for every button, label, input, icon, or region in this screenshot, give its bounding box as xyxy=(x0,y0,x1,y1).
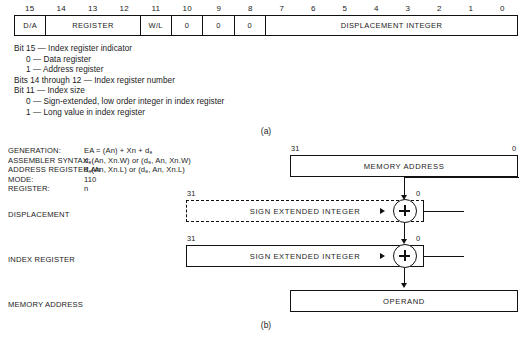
bit-description-list: Bit 15 — Index register indicator0 — Dat… xyxy=(14,44,224,118)
bit-description-line: Bit 15 — Index register indicator xyxy=(14,44,224,55)
caption-a: (a) xyxy=(0,126,532,136)
arrow-into-operand xyxy=(401,283,407,288)
bit-description-line: 0 — Data register xyxy=(26,55,224,66)
bit-field-diagram: 1514131211109876543210 D/AREGISTERW/L000… xyxy=(14,2,518,36)
bit-number-5: 5 xyxy=(329,2,361,15)
connector-displacement-to-adder-1 xyxy=(424,211,464,212)
row-label-index-register: INDEX REGISTER xyxy=(8,255,75,264)
bit-field-w-l: W/L xyxy=(141,16,172,35)
bit-number-3: 3 xyxy=(392,2,424,15)
box-operand: OPERAND xyxy=(290,290,518,312)
bit-description-line: Bit 11 — Index size xyxy=(14,86,224,97)
row-label-address-register: ADDRESS REGISTER An xyxy=(8,165,100,174)
bit-number-7: 7 xyxy=(266,2,298,15)
row-label-memory-address: MEMORY ADDRESS xyxy=(8,300,83,309)
row-label-displacement: DISPLACEMENT xyxy=(8,210,69,219)
bit-field-0: 0 xyxy=(235,16,266,35)
bit-field-boxes: D/AREGISTERW/L000DISPLACEMENT INTEGER xyxy=(14,15,518,36)
box-memory-address-register: MEMORY ADDRESS xyxy=(290,155,518,177)
bit-number-row: 1514131211109876543210 xyxy=(14,2,518,15)
bit-number-13: 13 xyxy=(77,2,109,15)
arrow-displacement-into-adder-1 xyxy=(380,208,385,214)
bit-number-1: 1 xyxy=(455,2,487,15)
bitmark-lsb-address-register: 0 xyxy=(512,144,516,153)
bit-number-0: 0 xyxy=(487,2,519,15)
adder-1 xyxy=(393,199,417,223)
box-index-register-sign-extended-integer: SIGN EXTENDED INTEGER xyxy=(186,245,424,267)
bit-number-4: 4 xyxy=(361,2,393,15)
bitmark-lsb-index-register: 0 xyxy=(416,234,420,243)
bit-number-12: 12 xyxy=(109,2,141,15)
connector-index-register-to-adder-2 xyxy=(424,256,464,257)
connector-adder-1-to-adder-2 xyxy=(404,223,405,240)
bit-field-d-a: D/A xyxy=(15,16,46,35)
connector-adder-2-to-operand xyxy=(404,268,405,284)
bitmark-msb-address-register: 31 xyxy=(291,144,300,153)
connector-address-register-bottom xyxy=(404,177,519,178)
bitmark-msb-displacement: 31 xyxy=(187,189,196,198)
connector-address-register-down xyxy=(404,177,405,197)
caption-b: (b) xyxy=(0,320,532,330)
bit-field-0: 0 xyxy=(203,16,234,35)
bit-number-9: 9 xyxy=(203,2,235,15)
bit-number-8: 8 xyxy=(235,2,267,15)
bit-description-line: 1 — Long value in index register xyxy=(26,108,224,119)
bit-field-displacement-integer: DISPLACEMENT INTEGER xyxy=(266,16,517,35)
bit-number-6: 6 xyxy=(298,2,330,15)
box-displacement-sign-extended-integer: SIGN EXTENDED INTEGER xyxy=(186,200,424,222)
effective-address-diagram: ADDRESS REGISTER An 31 0 MEMORY ADDRESS … xyxy=(0,140,532,320)
bit-description-line: Bits 14 through 12 — Index register numb… xyxy=(14,76,224,87)
bit-number-14: 14 xyxy=(46,2,78,15)
arrow-index-into-adder-2 xyxy=(380,253,385,259)
bitmark-msb-index-register: 31 xyxy=(187,234,196,243)
bit-description-line: 0 — Sign-extended, low order integer in … xyxy=(26,97,224,108)
bit-number-10: 10 xyxy=(172,2,204,15)
bit-description-line: 1 — Address register xyxy=(26,65,224,76)
adder-2 xyxy=(393,244,417,268)
figure-page: 1514131211109876543210 D/AREGISTERW/L000… xyxy=(0,0,532,341)
bit-number-2: 2 xyxy=(424,2,456,15)
bitmark-lsb-displacement: 0 xyxy=(416,189,420,198)
bit-field-0: 0 xyxy=(172,16,203,35)
bit-field-register: REGISTER xyxy=(46,16,140,35)
bit-number-11: 11 xyxy=(140,2,172,15)
bit-number-15: 15 xyxy=(14,2,46,15)
